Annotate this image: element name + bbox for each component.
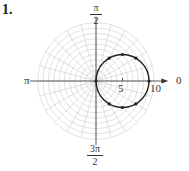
- label-pi: π: [24, 74, 30, 86]
- label-3pi-over-2: 3π 2: [87, 144, 103, 167]
- tick-label-5: 5: [118, 82, 124, 94]
- label-num: 3π: [87, 144, 103, 154]
- label-pi-over-2: π 2: [90, 3, 102, 26]
- label-den: 2: [87, 157, 103, 167]
- label-num: π: [90, 3, 102, 13]
- label-den: 2: [90, 16, 102, 26]
- tick-label-10: 10: [150, 82, 161, 94]
- label-zero: 0: [176, 74, 182, 86]
